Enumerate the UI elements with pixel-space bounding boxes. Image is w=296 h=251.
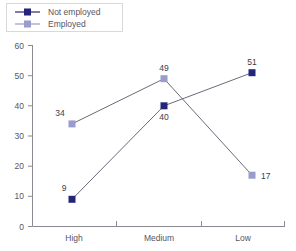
- data-label-employed-high: 34: [55, 108, 65, 118]
- series-not-employed: 9 40 51: [62, 57, 257, 203]
- legend-marker-employed: [24, 21, 31, 28]
- data-label-not-employed-high: 9: [62, 183, 67, 193]
- y-tick-label: 40: [15, 101, 25, 111]
- legend-label-not-employed: Not employed: [48, 7, 101, 17]
- data-point-not-employed-high[interactable]: [69, 196, 76, 203]
- y-tick-label: 30: [15, 131, 25, 141]
- data-point-employed-medium[interactable]: [161, 75, 168, 82]
- data-label-employed-low: 17: [261, 171, 271, 181]
- y-axis-tick-labels: 60 50 40 30 20 10 0: [15, 41, 25, 232]
- legend-label-employed: Employed: [48, 19, 86, 29]
- legend-item-not-employed[interactable]: Not employed: [15, 7, 101, 17]
- legend-marker-not-employed: [24, 9, 31, 16]
- y-axis-ticks: [28, 46, 33, 227]
- x-tick-label-high: High: [65, 233, 83, 243]
- chart-canvas: Not employed Employed: [0, 0, 296, 251]
- y-tick-label: 50: [15, 71, 25, 81]
- data-label-employed-medium: 49: [159, 63, 169, 73]
- data-point-employed-low[interactable]: [249, 172, 256, 179]
- chart-legend: Not employed Employed: [7, 4, 123, 32]
- data-point-not-employed-low[interactable]: [249, 69, 256, 76]
- series-not-employed-line: [72, 73, 252, 200]
- y-tick-label: 0: [19, 222, 24, 232]
- chart-axes: 60 50 40 30 20 10 0 High Medium Low: [15, 41, 285, 244]
- series-employed-line: [72, 79, 252, 176]
- line-chart: Not employed Employed: [0, 0, 296, 251]
- data-label-not-employed-medium: 40: [159, 112, 169, 122]
- y-tick-label: 10: [15, 191, 25, 201]
- x-tick-label-medium: Medium: [144, 233, 174, 243]
- data-label-not-employed-low: 51: [247, 57, 257, 67]
- y-tick-label: 60: [15, 41, 25, 51]
- x-tick-label-low: Low: [235, 233, 251, 243]
- data-point-not-employed-medium[interactable]: [161, 102, 168, 109]
- data-point-employed-high[interactable]: [69, 120, 76, 127]
- legend-item-employed[interactable]: Employed: [15, 19, 86, 29]
- x-axis-ticks: [117, 221, 285, 227]
- x-axis-tick-labels: High Medium Low: [65, 233, 251, 243]
- y-tick-label: 20: [15, 161, 25, 171]
